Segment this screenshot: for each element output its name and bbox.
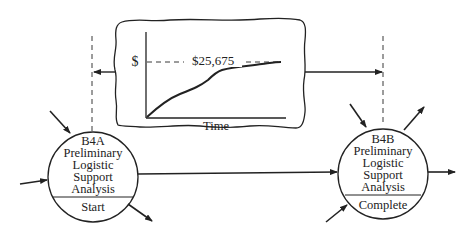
chart-x-label: Time — [196, 120, 236, 132]
arrow-b4b-output-top — [404, 107, 424, 130]
node-b4a-line-4: Analysis — [53, 183, 133, 195]
arrow-b4a-to-b4b — [138, 172, 337, 174]
node-b4b: B4B Preliminary Logistic Support Analysi… — [343, 133, 423, 211]
node-b4b-line-4: Analysis — [343, 181, 423, 193]
chart-annotation-value: $25,675 — [184, 55, 242, 67]
arrow-b4a-input-top — [50, 111, 70, 133]
cost-curve — [147, 62, 281, 117]
arrow-b4a-input-left — [20, 180, 47, 184]
node-b4a: B4A Preliminary Logistic Support Analysi… — [53, 135, 133, 213]
arrow-b4b-input-top — [350, 104, 366, 127]
chart-y-label: $ — [128, 56, 142, 68]
node-b4a-footer: Start — [53, 201, 133, 213]
node-b4b-footer: Complete — [343, 199, 423, 211]
inset-boundary — [114, 18, 305, 128]
